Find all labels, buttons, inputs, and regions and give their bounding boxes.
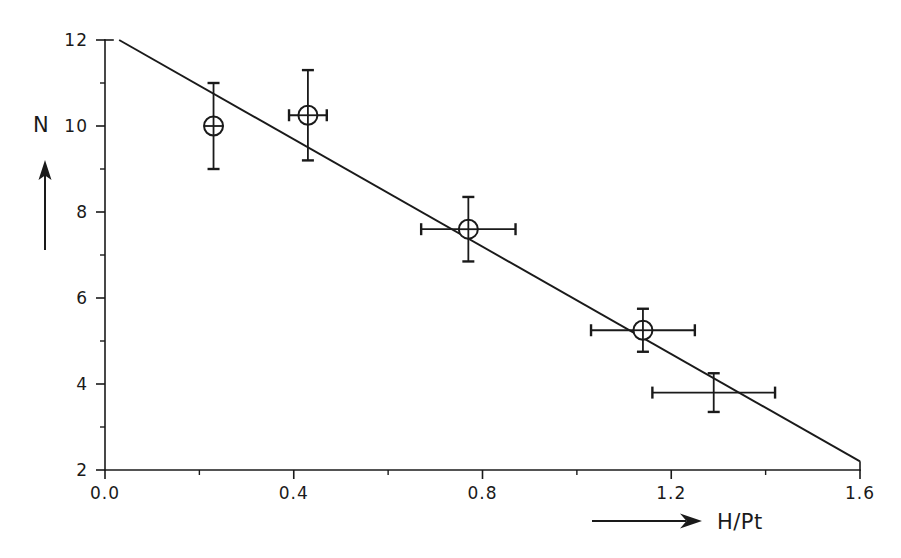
x-axis-title-group: H/Pt	[592, 510, 763, 534]
x-axis-title: H/Pt	[717, 510, 763, 534]
y-axis-title-group: N	[33, 113, 52, 250]
y-tick-label-5: 12	[64, 30, 88, 50]
y-axis-ticks	[96, 40, 105, 470]
y-axis-tick-labels: 24681012	[64, 30, 88, 480]
chart-canvas: 24681012 0.00.40.81.21.6 N H/Pt	[0, 0, 901, 558]
chart-figure: 24681012 0.00.40.81.21.6 N H/Pt	[0, 0, 901, 558]
x-tick-label-0: 0.0	[90, 483, 120, 503]
y-axis-title: N	[33, 113, 49, 137]
data-point-2	[289, 70, 327, 160]
x-tick-label-1: 0.4	[279, 483, 309, 503]
x-tick-label-4: 1.6	[845, 483, 875, 503]
x-axis-tick-labels: 0.00.40.81.21.6	[90, 483, 875, 503]
data-point-1	[204, 83, 223, 169]
y-tick-label-4: 10	[64, 116, 88, 136]
data-points-group	[204, 70, 775, 412]
fit-line-group	[119, 40, 860, 461]
x-tick-label-2: 0.8	[467, 483, 497, 503]
linear-fit-line	[119, 40, 860, 461]
data-point-4	[591, 309, 695, 352]
data-point-3	[421, 197, 515, 262]
x-axis-ticks	[105, 470, 860, 479]
y-tick-label-0: 2	[76, 460, 88, 480]
y-tick-label-2: 6	[76, 288, 88, 308]
axes-group	[105, 40, 860, 470]
y-tick-label-3: 8	[76, 202, 88, 222]
y-tick-label-1: 4	[76, 374, 88, 394]
data-point-5	[652, 373, 775, 412]
x-tick-label-3: 1.2	[656, 483, 686, 503]
